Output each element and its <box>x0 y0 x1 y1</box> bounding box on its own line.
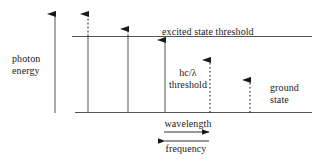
photon-energy-diagram: photonenergy excited state threshold hc/… <box>0 0 323 164</box>
frequency-label: frequency <box>150 143 222 155</box>
hc-lambda-threshold-label: hc/λthreshold <box>166 67 210 90</box>
hc-lambda-line-1: hc/λ <box>179 67 196 78</box>
photon-energy-line-2: energy <box>12 65 40 76</box>
hc-lambda-line-2: threshold <box>169 79 207 90</box>
wavelength-label: wavelength <box>152 118 224 130</box>
ground-state-line-1: ground <box>270 82 299 93</box>
excited-state-threshold-label: excited state threshold <box>162 26 254 38</box>
ground-state-line-2: state <box>270 94 289 105</box>
ground-state-label: groundstate <box>270 82 299 105</box>
photon-energy-line-1: photon <box>12 53 40 64</box>
photon-energy-axis-label: photonenergy <box>12 53 40 76</box>
